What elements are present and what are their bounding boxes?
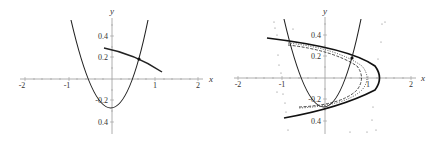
x-axis: -2 -1 1 2 x: [234, 73, 425, 89]
x-axis-label: x: [208, 74, 213, 84]
x-axis-label: x: [420, 73, 425, 83]
y-tick-label: 0.4: [311, 117, 321, 126]
y-tick-label: 0.2: [311, 52, 321, 61]
x-tick-label: 1: [153, 81, 157, 90]
x-tick-label: 2: [409, 80, 413, 89]
x-axis: -2 -1 1 2 x: [19, 74, 213, 90]
scatter-dots: [273, 21, 385, 132]
x-tick-label: -1: [279, 80, 286, 89]
x-tick-label: 2: [196, 81, 200, 90]
parabola-curve: [71, 20, 148, 108]
x-tick-label: 1: [366, 80, 370, 89]
x-tick-label: -2: [235, 80, 242, 89]
y-axis: 0.4 0.2 -0.2 0.4 y: [308, 6, 327, 134]
right-plot: -2 -1 1 2 x 0.4 0.2 -0.2 0.4 y: [221, 0, 442, 142]
parabola-curve: [284, 19, 361, 107]
y-tick-label: 0.4: [311, 31, 321, 40]
decreasing-curve: [104, 48, 162, 72]
y-axis-label: y: [109, 6, 114, 16]
y-tick-label: 0.2: [98, 53, 108, 62]
intersection-point: [137, 57, 140, 60]
y-axis: 0.4 0.2 -0.2 0.4 y: [95, 6, 114, 134]
left-plot-canvas: -2 -1 1 2 x 0.4 0.2 -0.2 0.4 y: [0, 0, 221, 142]
x-tick-label: -2: [19, 81, 26, 90]
left-plot: -2 -1 1 2 x 0.4 0.2 -0.2 0.4 y: [0, 0, 221, 142]
y-tick-label: 0.4: [98, 32, 108, 41]
right-plot-canvas: -2 -1 1 2 x 0.4 0.2 -0.2 0.4 y: [221, 0, 442, 142]
x-tick-label: -1: [64, 81, 71, 90]
y-tick-label: 0.4: [98, 118, 108, 127]
intersection-point: [350, 56, 353, 59]
y-axis-label: y: [322, 6, 327, 16]
